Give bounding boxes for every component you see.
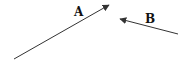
- vector-a-label: A: [73, 5, 84, 19]
- vector-a-arrow: [14, 5, 109, 59]
- vector-b-label: B: [145, 12, 155, 26]
- vector-diagram: A B: [0, 0, 186, 63]
